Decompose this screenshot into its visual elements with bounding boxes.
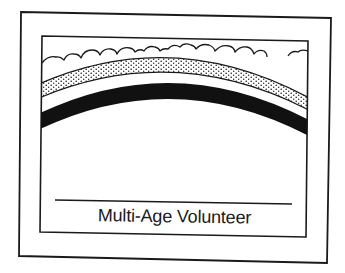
certificate-caption: Multi-Age Volunteer <box>42 204 307 229</box>
signature-line <box>55 200 292 204</box>
certificate-artwork <box>0 0 345 273</box>
certificate-card: Multi-Age Volunteer <box>0 0 345 273</box>
